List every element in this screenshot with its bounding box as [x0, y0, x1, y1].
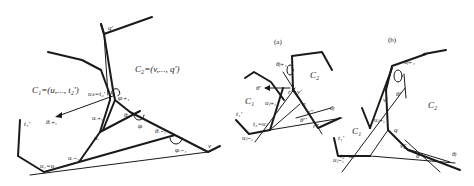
label-t1-prime: t₁'	[24, 120, 30, 128]
label-v-prime-a: v'	[297, 88, 302, 96]
label-theta-im1: θᵢ₋₁	[155, 127, 166, 135]
label-ujm1-a: uⱼ₋₁	[242, 134, 253, 142]
label-uj1-b: uⱼ₊₁	[374, 116, 385, 124]
label-theta-dprime-b: θ''	[416, 152, 423, 160]
label-ujm1-b: uⱼ₋₁	[333, 156, 344, 164]
caption-b: (b)	[388, 36, 397, 44]
angle-arc-theta-j1-b	[394, 70, 402, 82]
ray-u1-v	[30, 152, 208, 175]
label-v-dprime-b: v''	[400, 142, 407, 150]
label-u-i: uᵢ	[94, 134, 99, 142]
figure-b: (b) θⱼ₊₁ θ' v' C₂ uⱼ₊₁ C₁ q t₁' v'' t₂=u…	[333, 36, 460, 172]
label-u-im1: uᵢ₋₁	[68, 154, 79, 162]
label-theta-prime-a: θ'	[256, 84, 261, 92]
label-theta-dprime-a: θ''	[300, 116, 307, 124]
angle-arc-phi-im1	[170, 138, 182, 144]
label-r-prime-a: r'	[288, 88, 293, 96]
label-c1-b: C₁	[352, 126, 361, 136]
label-theta-i: θᵢ	[124, 111, 129, 119]
label-q-prime: q'	[108, 24, 114, 32]
label-c1-a: C₁	[245, 96, 254, 106]
line-b2	[370, 130, 388, 156]
label-c2-a: C₂	[310, 70, 319, 80]
curve-c2-right	[115, 100, 220, 152]
label-theta-j1-b: θⱼ₊₁	[404, 58, 415, 66]
figure-main: q' C₂=(v,..., q') C₁=(u,..., t₂') uₖ=t₂'…	[18, 17, 220, 175]
label-c2: C₂=(v,..., q')	[135, 64, 179, 74]
arrowhead-icon	[264, 85, 270, 91]
arrow-theta-i1	[58, 96, 113, 116]
label-phi-i1: φᵢ₊₁	[118, 94, 129, 102]
label-uk-t2: uₖ=t₂'	[88, 90, 106, 98]
label-theta-j1-a: θⱼ₊₁	[276, 60, 287, 68]
label-phi-i: φᵢ	[138, 122, 143, 130]
figure-a: (a) θⱼ₊₁ C₂ θ' r' v' C₁ uⱼ₊₁ q v'' θⱼ t₁…	[236, 38, 342, 142]
line-a4	[255, 88, 295, 142]
label-uj1-a: uⱼ₊₁	[265, 99, 276, 107]
label-u1-u: u₁=u	[40, 162, 55, 170]
diagram-canvas: q' C₂=(v,..., q') C₁=(u,..., t₂') uₖ=t₂'…	[0, 0, 474, 186]
label-theta-prime-b: θ'	[396, 90, 401, 98]
label-t1-prime-b: t₁'	[338, 134, 344, 142]
label-theta-j-a: θⱼ	[330, 104, 335, 112]
label-c1: C₁=(u,..., t₂')	[32, 85, 79, 95]
label-v: v	[208, 142, 212, 150]
curve-uj1-stub-b	[362, 108, 370, 128]
label-phi-im1: φᵢ₋₁	[175, 146, 186, 154]
label-u-i1: uᵢ₊₁	[92, 114, 103, 122]
label-theta-j-b: θⱼ	[452, 150, 457, 158]
label-q-a: q	[302, 100, 306, 108]
label-v-dprime-a: v''	[307, 108, 314, 116]
curve-c2-b-top	[386, 50, 446, 90]
label-r-dprime-a: r''	[313, 122, 319, 130]
line-b4	[405, 140, 440, 172]
label-v-prime-b: v'	[383, 96, 388, 104]
label-theta-i1: θᵢ₊₁	[46, 118, 57, 126]
curve-uj1-a	[270, 88, 283, 130]
label-t1-prime-a: t₁'	[236, 110, 242, 118]
label-t2-uj-a: t₂=uⱼ	[253, 120, 268, 128]
caption-a: (a)	[274, 38, 282, 46]
label-c2-b: C₂	[428, 100, 437, 110]
line-b6	[404, 74, 406, 98]
label-q-b: q	[394, 126, 398, 134]
